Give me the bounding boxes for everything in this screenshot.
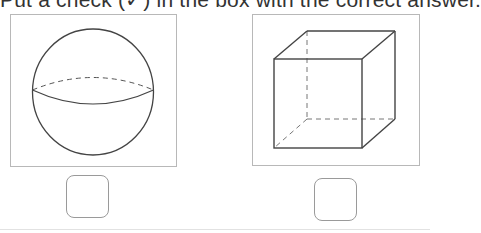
bottom-divider [0,229,430,230]
cube-figure [253,15,421,167]
cube-hidden-edge-diagonal [274,119,307,148]
option-cube-frame [252,14,420,166]
cube-bottom-right-edge [362,119,395,148]
option-sphere-frame [10,14,177,167]
cube-top-right-edge [362,31,395,59]
sphere-equator-back-dashed [33,78,154,91]
cube-top-left-edge [274,31,307,59]
sphere-answer-checkbox[interactable] [66,175,109,218]
sphere-equator-front [33,90,154,104]
cube-front-face [274,59,362,148]
instruction-text: Put a check (✓) in the box with the corr… [0,0,430,12]
sphere-outline [33,29,154,155]
cube-answer-checkbox[interactable] [314,178,357,221]
sphere-figure [11,15,178,168]
